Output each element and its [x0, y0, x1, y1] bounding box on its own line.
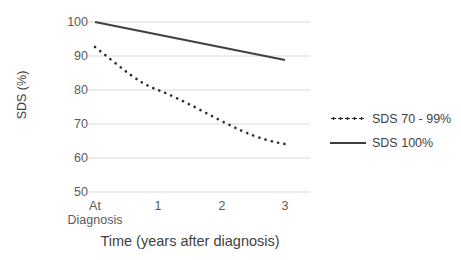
series-line-sds-70-99: [95, 47, 285, 144]
legend-label: SDS 100%: [372, 136, 433, 150]
legend-item-sds-100: SDS 100%: [330, 131, 460, 155]
x-axis-title: Time (years after diagnosis): [60, 233, 320, 249]
series-line-sds-100: [95, 22, 285, 60]
gridlines: [88, 22, 310, 192]
chart-legend: SDS 70 - 99% SDS 100%: [330, 107, 460, 155]
x-tick-label-line2: Diagnosis: [55, 213, 135, 227]
legend-item-sds-70-99: SDS 70 - 99%: [330, 107, 460, 131]
solid-line-swatch-icon: [330, 137, 366, 149]
chart-container: SDS (%) 100 90 80 70 60 50 At Diagnosis …: [0, 0, 461, 260]
x-tick-label-3: 3: [245, 199, 325, 213]
legend-label: SDS 70 - 99%: [372, 112, 451, 126]
dotted-line-swatch-icon: [330, 113, 366, 125]
